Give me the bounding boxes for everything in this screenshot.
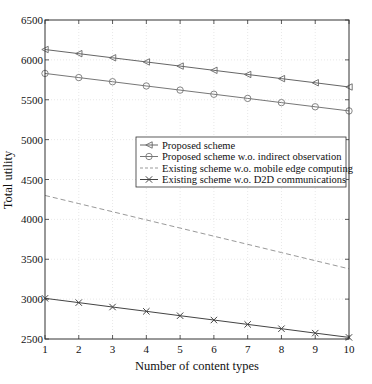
x-tick-label: 10 <box>344 343 356 355</box>
series-group <box>42 46 352 340</box>
legend-item: Existing scheme w.o. D2D communications <box>140 174 346 185</box>
x-tick-label: 6 <box>211 343 217 355</box>
series-line <box>45 195 349 268</box>
y-tick-label: 3000 <box>21 293 44 305</box>
y-tick-label: 6000 <box>21 54 44 66</box>
x-axis-title: Number of content types <box>135 359 259 373</box>
y-axis-title: Total utility <box>1 150 15 209</box>
x-tick-label: 5 <box>177 343 183 355</box>
legend-item: Proposed scheme w.o. indirect observatio… <box>140 151 342 162</box>
series-path <box>45 50 349 87</box>
series-path <box>45 195 349 268</box>
legend-label: Proposed scheme <box>162 140 236 151</box>
x-tick-label: 1 <box>42 343 48 355</box>
series-line <box>42 46 352 90</box>
legend-label: Existing scheme w.o. D2D communications <box>162 174 346 185</box>
x-tick-label: 4 <box>144 343 150 355</box>
series-path <box>45 73 349 110</box>
y-tick-label: 3500 <box>21 253 44 265</box>
x-tick-label: 9 <box>312 343 318 355</box>
y-tick-label: 5500 <box>21 94 44 106</box>
y-tick-label: 2500 <box>21 333 44 345</box>
line-chart: 1234567891025003000350040004500500055006… <box>0 0 372 384</box>
series-line <box>42 295 352 340</box>
x-tick-label: 2 <box>76 343 82 355</box>
legend: Proposed schemeProposed scheme w.o. indi… <box>136 137 354 187</box>
y-tick-label: 6500 <box>21 14 44 26</box>
legend-item: Existing scheme w.o. mobile edge computi… <box>140 163 354 174</box>
x-tick-label: 3 <box>110 343 116 355</box>
series-line <box>42 70 352 114</box>
x-tick-label: 8 <box>279 343 285 355</box>
y-tick-label: 4000 <box>21 213 44 225</box>
y-tick-label: 5000 <box>21 134 44 146</box>
series-path <box>45 298 349 337</box>
x-tick-label: 7 <box>245 343 251 355</box>
y-tick-label: 4500 <box>21 174 44 186</box>
legend-label: Existing scheme w.o. mobile edge computi… <box>162 163 354 174</box>
legend-label: Proposed scheme w.o. indirect observatio… <box>162 151 342 162</box>
